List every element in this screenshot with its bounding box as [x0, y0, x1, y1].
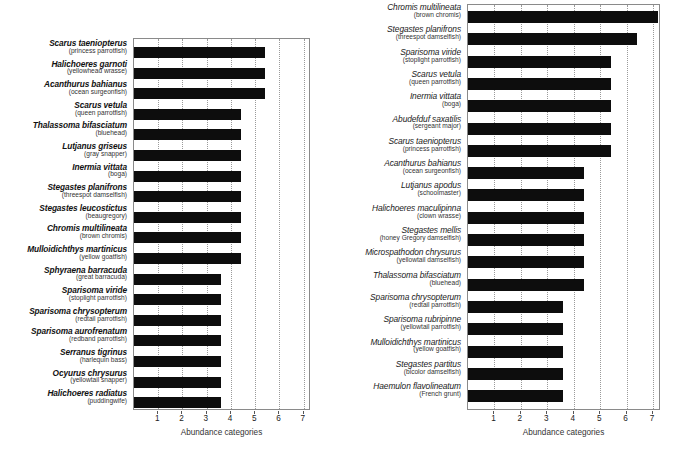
species-label: Scarus vetula(queen parrotfish) [74, 101, 127, 116]
common-name: (bicolor damselfish) [396, 369, 461, 376]
bar [134, 171, 241, 182]
common-name: (threespot damselfish) [47, 192, 127, 199]
species-label: Haemulon flavolineatum(French grunt) [373, 382, 461, 398]
species-label: Inermia vittata(boga) [410, 92, 461, 108]
bar [134, 109, 241, 120]
bar [468, 234, 584, 246]
common-name: (French grunt) [373, 391, 461, 398]
species-label: Stegastes planifrons(threespot damselfis… [47, 183, 127, 198]
bar [468, 301, 563, 313]
gridline [627, 5, 629, 409]
bar [468, 167, 584, 179]
bar [134, 356, 221, 367]
bar [468, 368, 563, 380]
common-name: (redband parrotfish) [31, 336, 127, 343]
species-label: Lutjanus griseus(gray snapper) [62, 142, 127, 157]
bar [134, 253, 241, 264]
x-tick-label: 5 [252, 414, 257, 423]
species-label: Stegastes planifrons(threespot damselfis… [387, 25, 461, 41]
bar [134, 232, 241, 243]
species-label: Inermia vittata(boga) [72, 163, 127, 178]
species-label: Scarus taeniopterus(princess parrotfish) [388, 137, 461, 153]
x-axis-label-right: Abundance categories [467, 428, 660, 437]
bar [468, 323, 563, 335]
common-name: (sergeant major) [393, 123, 461, 130]
bar [468, 390, 563, 402]
species-label: Stegastes partitus(bicolor damselfish) [396, 360, 461, 376]
bar [468, 56, 611, 68]
common-name: (bluehead) [373, 280, 461, 287]
x-tick-label: 4 [228, 414, 233, 423]
x-tick-label: 7 [300, 414, 305, 423]
common-name: (ocean surgeonfish) [44, 89, 127, 96]
common-name: (queen parrotfish) [74, 110, 127, 117]
bar [134, 47, 265, 58]
common-name: (clown wrasse) [372, 213, 461, 220]
x-tick-label: 2 [518, 414, 523, 423]
common-name: (stoplight parrotfish) [62, 295, 127, 302]
bar [468, 123, 611, 135]
species-label: Mulloidichthys martinicus(yellow goatfis… [27, 245, 127, 260]
species-label: Halichoeres radiatus(puddingwife) [47, 389, 127, 404]
species-label: Mulloidichthys martinicus(yellow goatfis… [370, 338, 461, 354]
gridline [304, 39, 306, 409]
species-label: Serranus tigrinus(harlequin bass) [60, 348, 127, 363]
common-name: (yellowtail snapper) [53, 377, 127, 384]
x-axis-right: 1234567 [467, 411, 660, 425]
species-label: Sparisoma aurofrenatum(redband parrotfis… [31, 327, 127, 342]
species-label: Sparisoma viride(stoplight parrotfish) [400, 48, 461, 64]
species-label: Chromis multilineata(brown chromis) [387, 3, 461, 19]
x-tick-label: 6 [276, 414, 281, 423]
bar [134, 274, 221, 285]
common-name: (redtail parrotfish) [370, 302, 461, 309]
bar [134, 315, 221, 326]
x-tick-label: 3 [203, 414, 208, 423]
bar-plot-right [467, 4, 660, 410]
species-label: Sparisoma chrysopterum(redtail parrotfis… [29, 307, 127, 322]
gridline [653, 5, 655, 409]
bar [134, 377, 221, 388]
common-name: (queen parrotfish) [409, 79, 461, 86]
bar [134, 191, 241, 202]
common-name: (harlequin bass) [60, 357, 127, 364]
common-name: (stoplight parrotfish) [400, 57, 461, 64]
bar [134, 294, 221, 305]
x-tick-label: 7 [650, 414, 655, 423]
common-name: (princess parrotfish) [388, 146, 461, 153]
common-name: (beaugregory) [39, 213, 127, 220]
bar [134, 68, 265, 79]
bar [468, 100, 611, 112]
bar [134, 129, 241, 140]
bar [134, 150, 241, 161]
scientific-name: Stegastes leucostictus [39, 204, 127, 212]
x-axis-left: 1234567 [133, 411, 310, 425]
species-label: Lutjanus apodus(schoolmaster) [401, 181, 461, 197]
common-name: (ocean surgeonfish) [384, 168, 461, 175]
common-name: (yellow goatfish) [27, 254, 127, 261]
bar [134, 335, 221, 346]
common-name: (bluehead) [33, 130, 127, 137]
species-label: Chromis multilineata(brown chromis) [47, 224, 127, 239]
common-name: (redtail parrotfish) [29, 316, 127, 323]
bar [468, 145, 611, 157]
scientific-name: Scarus taeniopterus [388, 137, 461, 145]
common-name: (puddingwife) [47, 398, 127, 405]
species-label: Sparisoma chrysopterum(redtail parrotfis… [370, 293, 461, 309]
bar [468, 279, 584, 291]
bar [468, 346, 563, 358]
scientific-name: Stegastes partitus [396, 360, 461, 368]
species-label: Halichoeres garnoti(yellowhead wrasse) [51, 60, 127, 75]
species-label: Acanthurus bahianus(ocean surgeonfish) [384, 159, 461, 175]
bar [468, 189, 584, 201]
x-axis-label-left: Abundance categories [133, 428, 310, 437]
common-name: (yellowhead wrasse) [51, 68, 127, 75]
common-name: (threespot damselfish) [387, 34, 461, 41]
common-name: (princess parrotfish) [49, 48, 127, 55]
x-tick-label: 1 [155, 414, 160, 423]
bar [134, 88, 265, 99]
species-label: Ocyurus chrysurus(yellowtail snapper) [53, 369, 127, 384]
species-label: Sphyraena barracuda(great barracuda) [44, 266, 127, 281]
scientific-name: Sparisoma chrysopterum [29, 307, 127, 315]
common-name: (boga) [410, 101, 461, 108]
scientific-name: Halichoeres maculipinna [372, 204, 461, 212]
